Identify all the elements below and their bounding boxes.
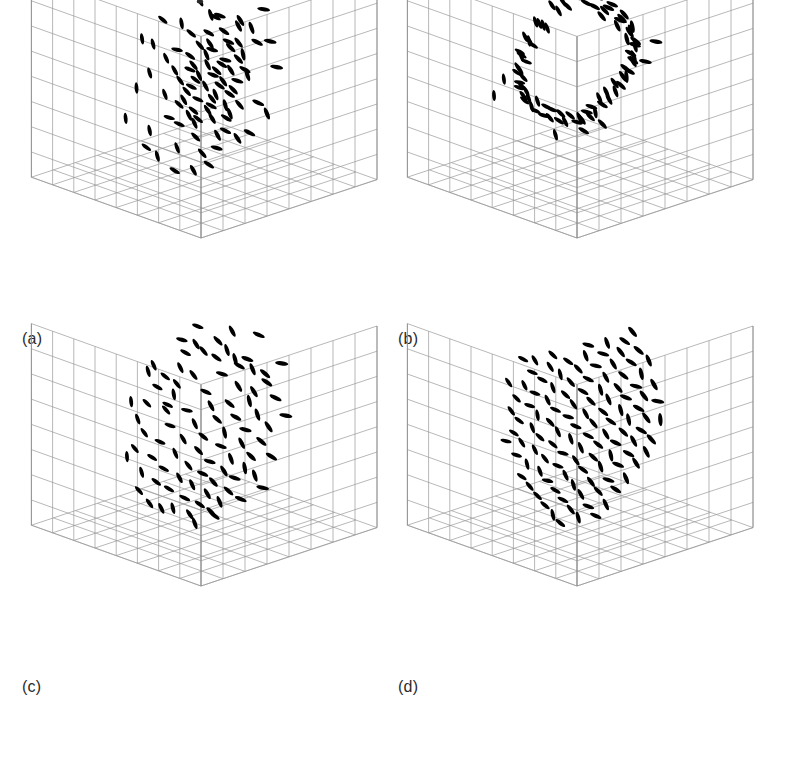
scatter-marker (592, 0, 604, 2)
scatter-marker (249, 385, 259, 398)
scatter-marker (631, 457, 641, 470)
scatter-marker (557, 368, 564, 381)
panel-label-d: (d) (398, 678, 418, 696)
scatter-marker (532, 490, 543, 501)
scatter-marker (202, 28, 215, 38)
grid-line (450, 134, 626, 192)
scatter-marker (560, 389, 572, 400)
scatter-marker (193, 445, 204, 457)
scatter-marker (513, 416, 525, 426)
scatter-marker (173, 120, 186, 128)
grid-line (53, 474, 229, 532)
plot-c (0, 348, 399, 688)
scatter-marker (138, 466, 145, 478)
scatter-marker (224, 398, 236, 409)
scatter-marker (573, 363, 584, 375)
scatter-marker (581, 407, 590, 420)
scatter-marker (207, 112, 217, 125)
scatter-marker (562, 413, 575, 420)
wireframe-box-c (31, 324, 377, 586)
wireframe-box-d (407, 324, 753, 586)
panel-c: (c) (0, 348, 399, 729)
scatter-marker (245, 450, 257, 462)
scatter-marker (638, 389, 649, 402)
grid-line (185, 474, 355, 535)
scatter-marker (130, 443, 140, 454)
scatter-marker (526, 368, 538, 376)
scatter-marker (226, 64, 236, 77)
scatter-marker (215, 370, 228, 377)
scatter-marker (504, 377, 513, 389)
scatter3d-svg-b (376, 0, 775, 340)
grid-line (429, 126, 605, 184)
scatter-marker (649, 38, 663, 44)
scatter-marker (597, 460, 605, 473)
scatter-marker (530, 354, 539, 366)
scatter-marker (154, 438, 166, 446)
scatter-marker (129, 396, 134, 408)
scatter-marker (229, 412, 242, 422)
scatter-marker (171, 388, 177, 400)
scatter-marker (547, 349, 558, 360)
scatter-marker (279, 412, 293, 419)
scatter-marker (257, 6, 270, 12)
scatter-marker (233, 380, 243, 393)
scatter-marker (232, 132, 243, 145)
scatter-marker (528, 422, 536, 434)
plot-d (376, 348, 775, 688)
scatter-marker (146, 67, 153, 79)
scatter-marker (188, 478, 197, 491)
scatter-marker (536, 375, 548, 384)
scatter-marker (241, 355, 254, 363)
scatter-marker (270, 64, 284, 70)
scatter-marker (588, 417, 599, 429)
scatter-marker (524, 481, 534, 492)
scatter-marker (625, 413, 632, 426)
grid-line (207, 119, 377, 180)
scatter-marker (134, 82, 139, 94)
grid-line (539, 133, 709, 194)
scatter-marker (151, 383, 163, 392)
scatter-marker (658, 413, 663, 426)
scatter-marker (211, 414, 223, 425)
scatter-marker (649, 378, 659, 392)
panel-label-b: (b) (398, 330, 418, 348)
scatter-marker (501, 73, 506, 85)
scatter-marker (557, 450, 570, 457)
scatter-marker (641, 411, 652, 424)
scatter-marker (171, 47, 183, 53)
scatter-marker (169, 166, 181, 175)
scatter-marker (554, 5, 563, 17)
scatter-marker (247, 21, 255, 34)
scatter-marker (611, 460, 624, 469)
figure-root: (a) (b) (c) (d) (0, 0, 798, 763)
marker-layer-d (500, 326, 664, 529)
scatter-marker (197, 147, 208, 159)
scatter-marker (552, 462, 565, 470)
scatter-marker (629, 434, 639, 447)
grid-line (31, 119, 207, 177)
scatter-marker (202, 487, 212, 500)
scatter-marker (651, 398, 665, 405)
scatter-marker (597, 350, 610, 357)
panel-label-c: (c) (22, 678, 41, 696)
scatter-marker (547, 0, 557, 11)
scatter-marker (550, 509, 556, 521)
plot-b (376, 0, 775, 340)
scatter-marker (615, 346, 626, 359)
grid-line (95, 142, 271, 200)
scatter-marker (146, 453, 158, 462)
scatter-marker (596, 99, 609, 109)
grid-line (163, 133, 333, 194)
grid-line (583, 467, 753, 528)
scatter-marker (206, 399, 215, 412)
scatter-marker (239, 426, 252, 433)
panel-a: (a) (0, 0, 399, 381)
scatter-marker (524, 402, 536, 409)
scatter-marker (577, 387, 590, 397)
scatter-marker (275, 360, 289, 366)
scatter-marker (622, 449, 635, 459)
scatter-marker (233, 361, 246, 371)
scatter-marker (253, 408, 261, 422)
scatter-marker (612, 382, 624, 394)
